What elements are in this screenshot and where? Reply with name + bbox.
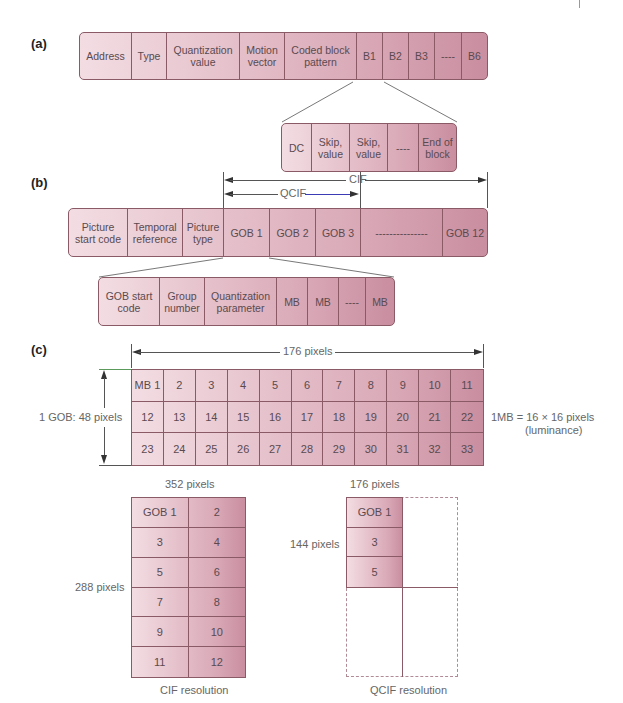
macroblock-cell: 6 [292, 370, 324, 402]
qcif-arrow-right [350, 191, 359, 197]
field-ellipsis: --------------- [361, 209, 443, 256]
macroblock-cell: 7 [323, 370, 355, 402]
gob-width-label: 176 pixels [283, 345, 333, 357]
macroblock-cell: 29 [323, 433, 355, 465]
qcif-gob-grid: GOB 1 3 5 [346, 497, 403, 588]
field-dc: DC [282, 124, 312, 171]
cif-gob-cell: 4 [189, 528, 246, 558]
cif-gob-cell: 3 [132, 528, 189, 558]
qcif-quadrant-divider-v [402, 587, 403, 677]
macroblock-cell: 8 [355, 370, 387, 402]
field-skip-value-1: Skip, value [312, 124, 350, 171]
macroblock-cell: 22 [451, 402, 483, 434]
field-ellipsis: ---- [339, 278, 366, 325]
macroblock-cell: 12 [132, 402, 164, 434]
macroblock-cell: 30 [355, 433, 387, 465]
qcif-width-label: 176 pixels [350, 478, 400, 490]
macroblock-cell: 5 [260, 370, 292, 402]
macroblock-cell: 19 [355, 402, 387, 434]
gob-width-line-left [138, 352, 280, 353]
macroblock-cell: 20 [387, 402, 419, 434]
field-mb-n: MB [366, 278, 394, 325]
gob-height-line-bottom [104, 427, 105, 457]
field-gob-start-code: GOB start code [99, 278, 160, 325]
cif-arrow-right [478, 177, 487, 183]
macroblock-cell: MB 1 [132, 370, 164, 402]
field-end-of-block: End of block [419, 124, 456, 171]
macroblock-cell: 15 [228, 402, 260, 434]
picture-format-bar: Picture start code Temporal reference Pi… [68, 208, 488, 257]
macroblock-cell: 17 [292, 402, 324, 434]
macroblock-cell: 2 [164, 370, 196, 402]
cif-height-label: 288 pixels [75, 581, 125, 593]
macroblock-cell: 24 [164, 433, 196, 465]
macroblock-cell: 23 [132, 433, 164, 465]
macroblock-cell: 9 [387, 370, 419, 402]
field-gob-2: GOB 2 [270, 209, 316, 256]
gob-width-line-right [335, 352, 475, 353]
cif-label: CIF [349, 173, 367, 185]
qcif-dimension-line-right [305, 194, 351, 195]
qcif-label: QCIF [280, 187, 306, 199]
cif-gob-cell: 12 [189, 647, 246, 677]
field-gob-1: GOB 1 [224, 209, 270, 256]
macroblock-cell: 18 [323, 402, 355, 434]
qcif-dimension-line-left [230, 194, 278, 195]
cif-dimension-line-right [365, 180, 479, 181]
cif-gob-cell: 9 [132, 617, 189, 647]
macroblock-cell: 11 [451, 370, 483, 402]
macroblock-cell: 10 [419, 370, 451, 402]
cif-caption: CIF resolution [160, 684, 228, 696]
macroblock-size-note-sub: (luminance) [525, 424, 582, 436]
cif-gob-cell: 10 [189, 617, 246, 647]
macroblock-cell: 32 [419, 433, 451, 465]
gob-height-bottom-tick [99, 465, 131, 466]
field-skip-value-2: Skip, value [350, 124, 388, 171]
gob-height-line-top [104, 378, 105, 408]
field-ellipsis: ---- [388, 124, 419, 171]
qcif-extent-right-tick [360, 172, 361, 208]
macroblock-cell: 3 [196, 370, 228, 402]
field-mb-2: MB [308, 278, 339, 325]
macroblock-size-note: 1MB = 16 × 16 pixels [491, 411, 594, 423]
qcif-caption: QCIF resolution [370, 684, 447, 696]
field-mb-1: MB [277, 278, 308, 325]
cif-gob-cell: 2 [189, 498, 246, 528]
macroblock-cell: 31 [387, 433, 419, 465]
field-picture-start-code: Picture start code [69, 209, 128, 256]
macroblock-cell: 4 [228, 370, 260, 402]
gob-width-left-tick [131, 344, 132, 368]
macroblock-cell: 14 [196, 402, 228, 434]
macroblock-cell: 26 [228, 433, 260, 465]
cif-dimension-line-left [230, 180, 346, 181]
cif-gob-cell: 6 [189, 558, 246, 588]
gob-format-bar: GOB start code Group number Quantization… [98, 277, 395, 326]
cif-width-label: 352 pixels [165, 478, 215, 490]
macroblock-cell: 13 [164, 402, 196, 434]
qcif-quadrant-divider-h [402, 587, 458, 588]
cif-extent-right-tick [487, 172, 488, 208]
cif-gob-cell: 11 [132, 647, 189, 677]
block-format-bar: DC Skip, value Skip, value ---- End of b… [281, 123, 457, 172]
macroblock-cell: 21 [419, 402, 451, 434]
macroblock-cell: 16 [260, 402, 292, 434]
cif-gob-cell: 8 [189, 588, 246, 618]
field-group-number: Group number [160, 278, 205, 325]
macroblock-cell: 28 [292, 433, 324, 465]
field-temporal-reference: Temporal reference [128, 209, 183, 256]
qcif-gob-cell: 3 [347, 528, 402, 558]
qcif-gob-cell: 5 [347, 557, 402, 587]
gob-width-right-tick [483, 344, 484, 368]
macroblock-cell: 25 [196, 433, 228, 465]
field-gob-12: GOB 12 [443, 209, 487, 256]
field-quantization-parameter: Quantization parameter [205, 278, 277, 325]
section-b-label: (b) [31, 175, 48, 190]
cif-gob-cell: GOB 1 [132, 498, 189, 528]
field-picture-type: Picture type [183, 209, 224, 256]
field-gob-3: GOB 3 [316, 209, 361, 256]
macroblock-cell: 27 [260, 433, 292, 465]
cif-gob-cell: 5 [132, 558, 189, 588]
macroblock-cell: 33 [451, 433, 483, 465]
gob-macroblock-grid: MB 1 2 3 4 5 6 7 8 9 10 11 12 13 14 15 1… [131, 369, 484, 466]
section-c-label: (c) [31, 342, 47, 357]
